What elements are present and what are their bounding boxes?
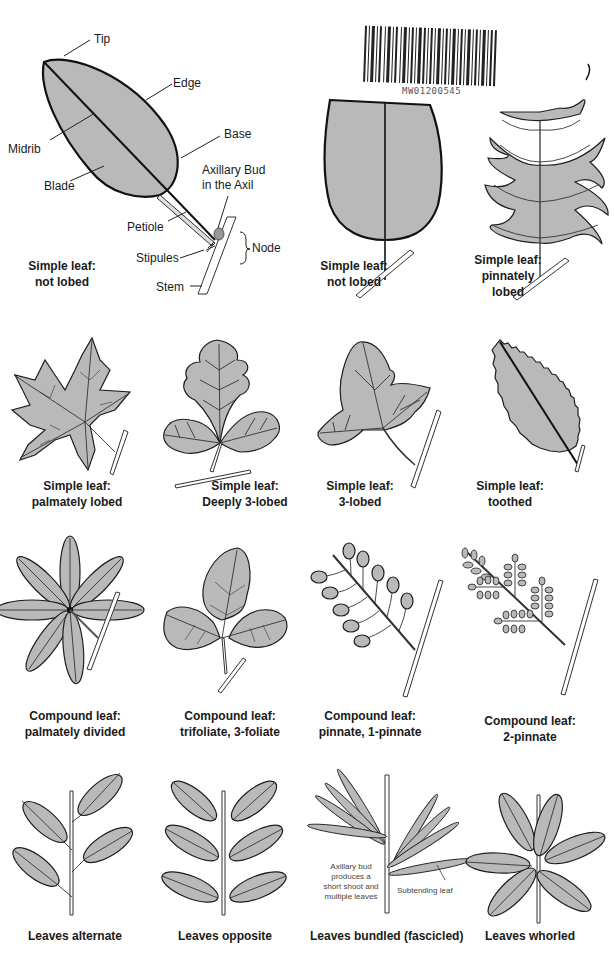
label-tip: Tip (94, 32, 110, 46)
caption-line: Simple leaf: (314, 258, 394, 274)
caption-line: Compound leaf: (305, 708, 435, 724)
leaf-simple-not-lobed: Simple leaf: not lobed (320, 95, 450, 300)
leaf-illustration (305, 330, 455, 490)
caption-line: Leaves bundled (fascicled) (310, 928, 460, 944)
leaf-illustration (150, 765, 300, 920)
caption-row4-4: Leaves whorled (470, 928, 590, 944)
caption-line: Simple leaf: (190, 478, 300, 494)
leaf-simple-palmately-lobed: Simple leaf: palmately lobed (0, 330, 150, 510)
fascicle-note: Axillary bud produces a short shoot and … (317, 862, 385, 902)
leaves-bundled-fascicled: Axillary bud produces a short shoot and … (305, 765, 465, 960)
leaf-compound-palmately-divided: Compound leaf: palmately divided (0, 540, 150, 740)
leaves-alternate: Leaves alternate (0, 765, 150, 960)
caption-line: Simple leaf: (305, 478, 415, 494)
caption-anatomy: Simple leaf: not lobed (22, 258, 102, 290)
caption-line: 2-pinnate (470, 729, 590, 745)
caption-line: Leaves opposite (165, 928, 285, 944)
caption-row3-3: Compound leaf: pinnate, 1-pinnate (305, 708, 435, 740)
leaf-illustration (490, 340, 614, 500)
caption-line: palmately divided (15, 724, 135, 740)
leaf-illustration (460, 545, 614, 700)
leaf-simple-deeply-3-lobed: Simple leaf: Deeply 3-lobed (155, 330, 305, 510)
caption-line: toothed (465, 494, 555, 510)
leaf-compound-trifoliate: Compound leaf: trifoliate, 3-foliate (155, 540, 305, 740)
leaf-illustration (0, 330, 150, 480)
caption-line: Compound leaf: (15, 708, 135, 724)
leaf-compound-2-pinnate: Compound leaf: 2-pinnate (460, 545, 614, 740)
leaf-illustration (460, 770, 614, 920)
caption-row4-3: Leaves bundled (fascicled) (310, 928, 460, 944)
label-node: Node (252, 241, 281, 255)
caption-row4-1: Leaves alternate (15, 928, 135, 944)
label-stipules: Stipules (136, 251, 179, 265)
leaf-illustration (0, 765, 150, 920)
leaf-illustration (155, 540, 305, 700)
label-axillary-bud: Axillary Bud (202, 163, 265, 177)
caption-line: pinnately (468, 268, 548, 284)
leaf-illustration (155, 330, 305, 490)
caption-row2-4: Simple leaf: toothed (465, 478, 555, 510)
label-base: Base (224, 127, 251, 141)
note-line: short shoot and (317, 882, 385, 892)
caption-row2-1: Simple leaf: palmately lobed (22, 478, 132, 510)
note-line: multiple leaves (317, 892, 385, 902)
caption-line: not lobed (314, 274, 394, 290)
caption-line: Simple leaf: (22, 258, 102, 274)
caption-row2-2: Simple leaf: Deeply 3-lobed (190, 478, 300, 510)
anatomy-diagram: Tip Edge Midrib Base Blade Axillary Bud … (0, 0, 300, 300)
label-axillary-bud-2: in the Axil (202, 178, 253, 192)
caption-line: lobed (468, 284, 548, 300)
caption-line: Compound leaf: (165, 708, 295, 724)
caption-line: palmately lobed (22, 494, 132, 510)
leaves-opposite: Leaves opposite (150, 765, 300, 960)
caption-row4-2: Leaves opposite (165, 928, 285, 944)
caption-line: Deeply 3-lobed (190, 494, 300, 510)
label-stem: Stem (156, 280, 184, 294)
caption-row3-1: Compound leaf: palmately divided (15, 708, 135, 740)
caption-line: trifoliate, 3-foliate (165, 724, 295, 740)
caption-line: Leaves alternate (15, 928, 135, 944)
caption-line: 3-lobed (305, 494, 415, 510)
caption-line: pinnate, 1-pinnate (305, 724, 435, 740)
leaf-illustration (305, 545, 455, 700)
leaves-whorled: Leaves whorled (460, 770, 614, 960)
caption-line: not lobed (22, 274, 102, 290)
note-line: Axillary bud (317, 862, 385, 872)
caption-row1-1: Simple leaf: not lobed (314, 258, 394, 290)
subtending-leaf-label: Subtending leaf (397, 886, 453, 896)
caption-row3-4: Compound leaf: 2-pinnate (470, 713, 590, 745)
caption-row1-2: Simple leaf: pinnately lobed (468, 252, 548, 300)
leaf-simple-toothed: Simple leaf: toothed (490, 340, 614, 510)
leaf-compound-pinnate: Compound leaf: pinnate, 1-pinnate (305, 545, 455, 740)
caption-line: Compound leaf: (470, 713, 590, 729)
label-midrib: Midrib (8, 142, 41, 156)
caption-line: Simple leaf: (465, 478, 555, 494)
caption-row3-2: Compound leaf: trifoliate, 3-foliate (165, 708, 295, 740)
leaf-simple-pinnately-lobed: Simple leaf: pinnately lobed (480, 60, 614, 300)
leaf-simple-3-lobed: Simple leaf: 3-lobed (305, 330, 455, 510)
label-petiole: Petiole (127, 220, 164, 234)
label-edge: Edge (173, 76, 201, 90)
label-blade: Blade (44, 179, 75, 193)
note-line: produces a (317, 872, 385, 882)
caption-line: Leaves whorled (470, 928, 590, 944)
caption-line: Simple leaf: (468, 252, 548, 268)
leaf-illustration (0, 540, 150, 680)
caption-row2-3: Simple leaf: 3-lobed (305, 478, 415, 510)
caption-line: Simple leaf: (22, 478, 132, 494)
